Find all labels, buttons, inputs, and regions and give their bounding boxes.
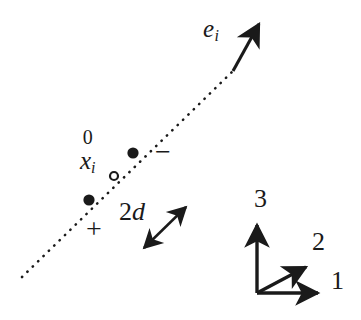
spacing-symbol: d [132,197,145,226]
spacing-double-arrow [144,207,186,248]
fiber-vector-base: e [203,15,214,42]
material-point-plus [83,194,94,205]
spacing-label: 2d [119,199,145,225]
material-point-center [110,172,118,180]
fiber-direction-arrow [233,24,259,71]
axis-1-label: 1 [331,268,344,294]
fiber-direction-diagram: ei 0 xi 2d + − 3 2 1 [0,0,361,320]
material-point-minus [127,147,138,158]
fiber-vector-label: ei [203,16,219,44]
reference-position-superscript: 0 [83,127,93,147]
minus-sign-label: − [155,138,171,166]
axis-2-line [257,267,306,293]
diagram-canvas [0,0,361,320]
reference-position-base-group: xi [80,148,96,176]
coordinate-axes-triad [257,225,318,293]
reference-position-label: 0 xi [80,127,96,176]
axis-3-label: 3 [254,186,267,212]
plus-sign-label: + [86,215,102,243]
fiber-vector-subscript: i [215,27,219,44]
fiber-dotted-line [22,71,233,277]
axis-2-label: 2 [312,229,325,255]
spacing-number: 2 [119,197,132,226]
reference-position-base: x [80,147,91,174]
reference-position-subscript: i [91,159,95,176]
